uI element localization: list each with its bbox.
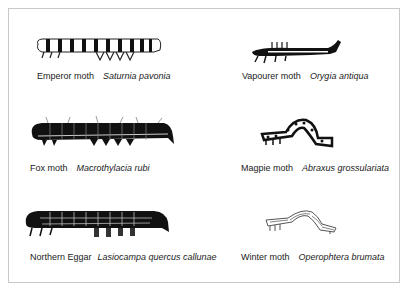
latin-name: Operophtera brumata — [299, 252, 385, 262]
emperor-moth-caterpillar-icon — [34, 36, 164, 64]
specimen-caption: Emperor mothSaturnia pavonia — [37, 71, 171, 81]
latin-name: Lasiocampa quercus callunae — [98, 252, 217, 262]
latin-name: Macrothylacia rubi — [77, 163, 150, 173]
common-name: Fox moth — [30, 163, 68, 173]
common-name: Vapourer moth — [242, 71, 301, 81]
magpie-moth-caterpillar-icon — [258, 112, 336, 148]
latin-name: Abraxus grossulariata — [302, 163, 389, 173]
specimen-caption: Fox mothMacrothylacia rubi — [30, 163, 150, 173]
specimen-caption: Northern EggarLasiocampa quercus calluna… — [30, 252, 217, 262]
specimen-caption: Winter mothOperophtera brumata — [241, 252, 385, 262]
common-name: Winter moth — [241, 252, 290, 262]
specimen-caption: Vapourer mothOrygia antiqua — [242, 71, 368, 81]
vapourer-moth-caterpillar-icon — [250, 38, 345, 66]
latin-name: Saturnia pavonia — [103, 71, 171, 81]
common-name: Northern Eggar — [30, 252, 92, 262]
northern-eggar-caterpillar-icon — [22, 206, 172, 242]
fox-moth-caterpillar-icon — [28, 116, 178, 150]
winter-moth-caterpillar-icon — [264, 206, 340, 238]
common-name: Emperor moth — [37, 71, 94, 81]
latin-name: Orygia antiqua — [310, 71, 369, 81]
specimen-caption: Magpie mothAbraxus grossulariata — [241, 163, 389, 173]
common-name: Magpie moth — [241, 163, 293, 173]
